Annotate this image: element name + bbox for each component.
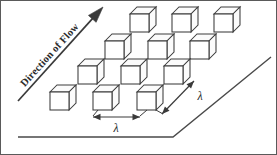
dimension-arrowhead-end [133,114,141,120]
cube [93,85,119,110]
cube [78,59,104,84]
cube [148,34,174,59]
cube-front-face [105,41,124,59]
dimension-leader-lines [93,110,163,116]
cube-front-face [148,41,167,59]
cube-front-face [164,66,183,84]
lambda-symbol-label: λ [112,121,118,135]
leader-left-lambda-end [140,110,147,116]
lambda-symbol-label: λ [196,89,202,103]
cube [137,85,163,110]
cube-front-face [78,66,97,84]
cube-front-face [137,92,156,110]
diagram-canvas: Direction of Flow λλ [0,0,277,155]
cube-front-face [130,14,149,32]
cube [214,7,240,32]
dimension-spanwise-spacing: λ [162,81,203,114]
cube [50,85,76,110]
cube [130,7,156,32]
cube-front-face [172,14,191,32]
cube [105,34,131,59]
cube-array [50,7,240,110]
cube-front-face [93,92,112,110]
cube-front-face [121,66,140,84]
flow-diagram-figure: Direction of Flow λλ [0,0,277,155]
cube-front-face [190,41,209,59]
flow-direction-label: Direction of Flow [18,21,81,89]
cube-front-face [50,92,69,110]
leader-left-lambda-start [93,110,98,116]
cube [172,7,198,32]
cube [190,34,216,59]
cube-front-face [214,14,233,32]
cube [121,59,147,84]
cube [164,59,190,84]
dimension-streamwise-spacing: λ [93,114,140,135]
